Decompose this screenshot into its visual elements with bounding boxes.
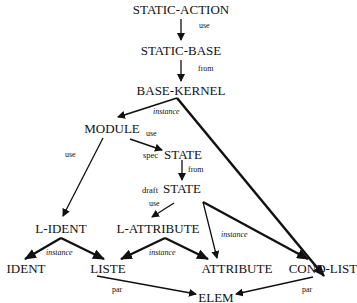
type-hierarchy-diagram: STATIC-ACTION STATIC-BASE BASE-KERNEL MO… bbox=[0, 0, 357, 303]
label-use-draft-l-attribute: use bbox=[149, 199, 160, 208]
label-from-static-base: from bbox=[198, 64, 214, 73]
label-par-liste: par bbox=[112, 285, 123, 294]
label-instance-module: instance bbox=[153, 107, 180, 116]
label-from-spec-state: from bbox=[188, 165, 204, 174]
label-use-module-state: use bbox=[146, 129, 157, 138]
node-liste: LISTE bbox=[90, 261, 125, 276]
label-instance-l-ident: instance bbox=[46, 248, 73, 257]
prefix-spec: spec bbox=[143, 150, 158, 160]
label-use-module-l-ident: use bbox=[65, 150, 76, 159]
edge-draft-state-cond-list bbox=[203, 202, 308, 259]
edge-module-spec-state bbox=[130, 139, 162, 150]
node-draft-state: STATE bbox=[163, 181, 201, 196]
node-module: MODULE bbox=[84, 121, 140, 136]
prefix-draft: draft bbox=[142, 185, 159, 195]
node-elem: ELEM bbox=[198, 290, 234, 303]
node-base-kernel: BASE-KERNEL bbox=[137, 83, 226, 98]
edge-draft-state-attribute bbox=[203, 202, 217, 258]
label-instance-draft-state: instance bbox=[221, 230, 248, 239]
label-use-static-action: use bbox=[199, 21, 210, 30]
node-static-base: STATIC-BASE bbox=[141, 43, 222, 58]
node-static-action: STATIC-ACTION bbox=[133, 2, 230, 17]
node-ident: IDENT bbox=[7, 261, 46, 276]
label-par-cond-list: par bbox=[302, 285, 313, 294]
node-cond-list: COND-LIST bbox=[289, 261, 357, 276]
node-attribute: ATTRIBUTE bbox=[202, 261, 273, 276]
node-l-attribute: L-ATTRIBUTE bbox=[116, 221, 199, 236]
node-l-ident: L-IDENT bbox=[35, 221, 86, 236]
node-spec-state: STATE bbox=[164, 147, 202, 162]
label-instance-l-attribute: instance bbox=[149, 248, 176, 257]
